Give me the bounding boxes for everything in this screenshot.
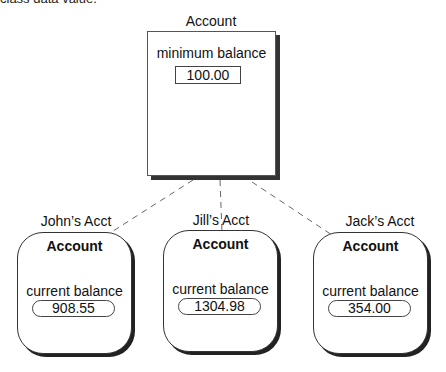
object-class-name: Account <box>164 236 277 252</box>
object-attribute-label: current balance <box>18 283 131 299</box>
object-label-jack: Jack’s Acct <box>330 213 430 229</box>
object-attribute-label: current balance <box>314 283 427 299</box>
class-box: minimum balance 100.00 <box>147 31 276 176</box>
object-jill: Account current balance 1304.98 <box>163 230 278 352</box>
object-class-name: Account <box>314 238 427 254</box>
object-attribute-value: 908.55 <box>32 300 115 317</box>
class-attribute-label: minimum balance <box>148 45 275 61</box>
object-jack: Account current balance 354.00 <box>313 232 428 354</box>
object-attribute-label: current balance <box>164 281 277 297</box>
object-attribute-value: 354.00 <box>328 300 411 317</box>
object-class-name: Account <box>18 238 131 254</box>
class-name-label: Account <box>147 13 275 29</box>
object-label-jill: Jill’s Acct <box>163 212 279 228</box>
object-john: Account current balance 908.55 <box>17 232 132 354</box>
class-attribute-value: 100.00 <box>175 66 241 84</box>
object-label-john: John’s Acct <box>20 213 132 229</box>
object-attribute-value: 1304.98 <box>178 298 261 315</box>
